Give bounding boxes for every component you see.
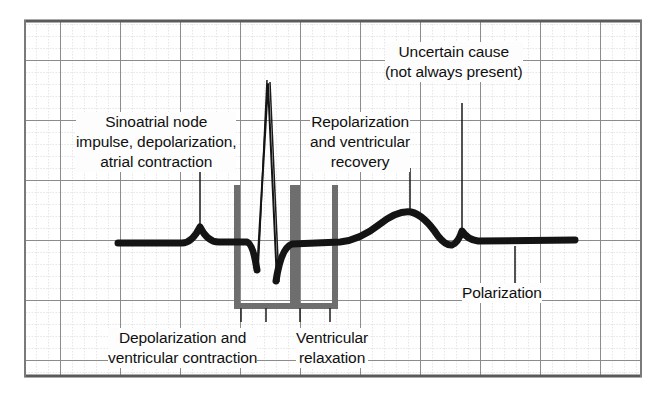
label-line: Sinoatrial node <box>76 112 236 132</box>
label-repolarization: Repolarization and ventricular recovery <box>310 112 410 172</box>
label-line: and ventricular <box>310 132 410 152</box>
label-line: Polarization <box>462 283 542 303</box>
label-line: Ventricular <box>296 328 368 348</box>
label-line: Uncertain cause <box>385 42 523 62</box>
label-line: recovery <box>310 152 410 172</box>
label-ventricular-relaxation: Ventricular relaxation <box>296 328 368 368</box>
label-uncertain-cause: Uncertain cause (not always present) <box>385 42 523 82</box>
label-depolarization: Depolarization and ventricular contracti… <box>108 328 257 368</box>
label-line: ventricular contraction <box>108 348 257 368</box>
label-line: impulse, depolarization, <box>76 132 236 152</box>
label-sinoatrial-node: Sinoatrial node impulse, depolarization,… <box>76 112 236 172</box>
label-line: (not always present) <box>385 62 523 82</box>
label-line: atrial contraction <box>76 152 236 172</box>
ecg-figure: Sinoatrial node impulse, depolarization,… <box>0 0 669 407</box>
label-line: Depolarization and <box>108 328 257 348</box>
label-polarization: Polarization <box>462 283 542 303</box>
label-line: relaxation <box>296 348 368 368</box>
label-line: Repolarization <box>310 112 410 132</box>
